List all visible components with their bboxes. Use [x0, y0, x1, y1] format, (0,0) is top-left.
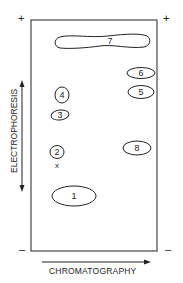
peptide-map-diagram: + + – – ELECTROPHORESIS CHROMATOGRAPHY x…	[0, 0, 183, 283]
spot-7-label: 7	[105, 37, 115, 46]
spot-6-label: 6	[136, 69, 146, 78]
negative-sign-bottom-right: –	[165, 244, 171, 255]
diagram-graphics	[0, 0, 183, 283]
negative-sign-bottom-left: –	[19, 244, 25, 255]
chromatography-axis-label: CHROMATOGRAPHY	[49, 266, 137, 276]
spot-4-label: 4	[57, 91, 67, 100]
positive-sign-top-left: +	[18, 13, 24, 24]
arrow-down-icon	[20, 185, 25, 192]
plate-border	[31, 20, 157, 251]
electrophoresis-axis-label: ELECTROPHORESIS	[9, 93, 19, 173]
arrow-up-icon	[20, 80, 25, 87]
positive-sign-top-right: +	[163, 13, 169, 24]
spot-2-label: 2	[52, 148, 62, 157]
spot-8-label: 8	[132, 144, 142, 153]
spot-1-label: 1	[69, 192, 79, 201]
spot-3-label: 3	[55, 111, 65, 120]
origin-marker: x	[53, 162, 61, 170]
spot-7-outline	[55, 34, 150, 48]
arrow-right-icon	[144, 260, 151, 265]
spot-5-label: 5	[136, 88, 146, 97]
